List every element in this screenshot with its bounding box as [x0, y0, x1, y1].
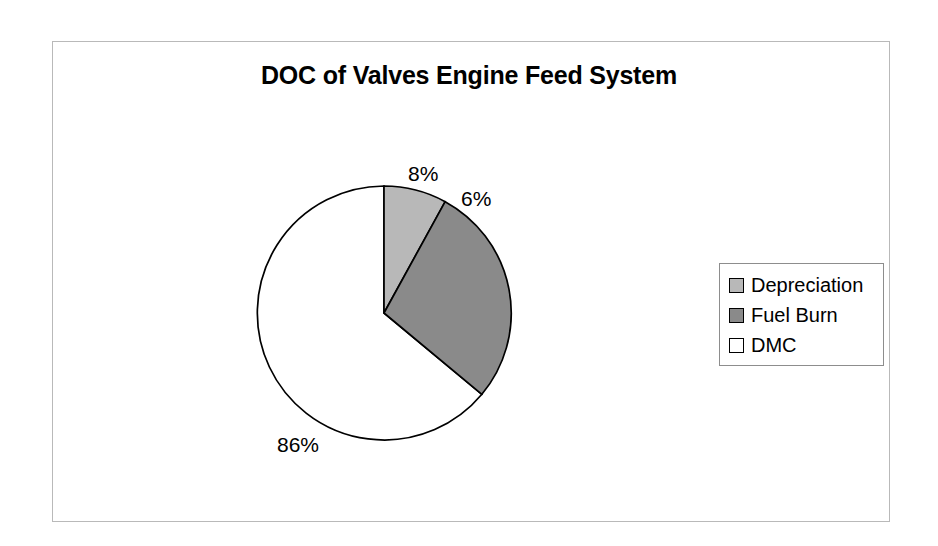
- pie-chart-plot-area: [240, 170, 540, 460]
- pie-chart-svg: [240, 170, 540, 460]
- pie-data-label-fuel-burn: 6%: [461, 188, 491, 210]
- legend-label-dmc: DMC: [751, 334, 797, 356]
- legend-item-depreciation[interactable]: Depreciation: [729, 270, 883, 300]
- legend-swatch-fuel-burn: [729, 308, 744, 323]
- legend-item-dmc[interactable]: DMC: [729, 330, 883, 360]
- legend-swatch-dmc: [729, 338, 744, 353]
- pie-data-label-depreciation: 8%: [408, 163, 438, 185]
- legend-label-depreciation: Depreciation: [751, 274, 863, 296]
- pie-data-label-dmc: 86%: [277, 434, 319, 456]
- legend-label-fuel-burn: Fuel Burn: [751, 304, 838, 326]
- legend-item-fuel-burn[interactable]: Fuel Burn: [729, 300, 883, 330]
- chart-title: DOC of Valves Engine Feed System: [0, 60, 938, 90]
- chart-legend: Depreciation Fuel Burn DMC: [719, 263, 884, 366]
- legend-swatch-depreciation: [729, 278, 744, 293]
